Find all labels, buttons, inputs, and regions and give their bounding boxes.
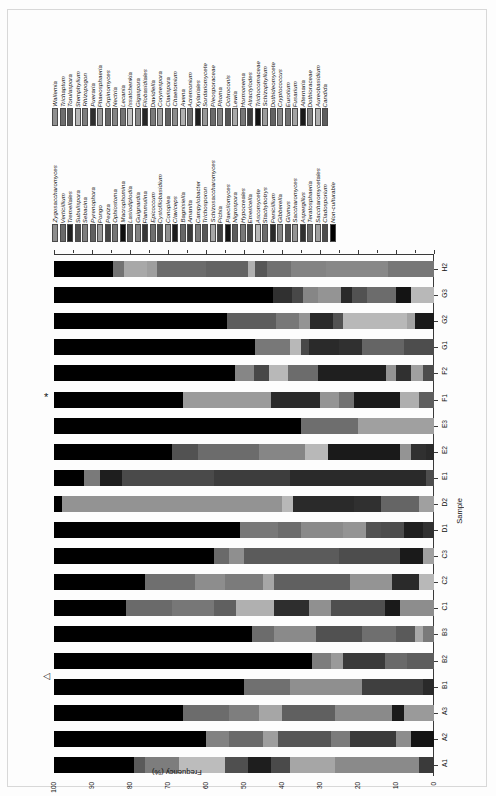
legend-item: Cladosporium <box>322 184 328 242</box>
legend-item: Orpinomyces <box>105 70 111 126</box>
sample-tick <box>434 321 438 322</box>
bar-segment <box>274 600 308 616</box>
bar-segment <box>255 339 289 355</box>
legend-color-swatch <box>300 108 306 126</box>
legend-item-label: Ophiostoma <box>112 189 118 223</box>
sample-tick-label: E3 <box>441 420 448 428</box>
legend-color-swatch <box>292 108 298 126</box>
bar-segment <box>124 261 147 277</box>
legend-color-swatch <box>247 108 253 126</box>
legend-color-swatch <box>187 224 193 242</box>
legend-color-swatch <box>277 224 283 242</box>
sample-tick-label: D2 <box>441 498 448 506</box>
bar-segment <box>282 705 335 721</box>
bar-segment <box>339 548 400 564</box>
legend-color-swatch <box>142 224 148 242</box>
frequency-minor-tick <box>225 250 226 253</box>
legend-item-label: Emericella <box>247 194 253 223</box>
frequency-tick <box>282 250 283 254</box>
legend-item: Penicillium <box>270 193 276 242</box>
legend-item: Corynespora <box>157 71 163 126</box>
legend-color-swatch <box>262 224 268 242</box>
bar-segment <box>235 365 254 381</box>
legend-color-swatch <box>180 224 186 242</box>
sample-tick <box>434 452 438 453</box>
legend-item: Aspergillus <box>300 192 306 242</box>
bar-segment <box>326 261 389 277</box>
legend-item: Gigaspora <box>135 78 141 126</box>
frequency-minor-tick <box>415 250 416 253</box>
bar-row <box>54 261 434 277</box>
legend-item: Dothideomycete <box>270 62 276 126</box>
bar-segment <box>310 313 333 329</box>
asterisk-marker: * <box>44 392 48 403</box>
legend-item-label: Non-culturable <box>330 182 336 223</box>
legend-color-swatch <box>112 108 118 126</box>
legend-item-label: Dothioraceae <box>307 70 313 107</box>
frequency-tick <box>130 250 131 254</box>
sample-tick-label: G2 <box>441 315 448 324</box>
bar-segment <box>426 444 434 460</box>
frequency-minor-tick <box>111 250 112 253</box>
sample-tick-label: A3 <box>441 707 448 715</box>
bar-segment <box>157 261 206 277</box>
bar-segment <box>229 705 259 721</box>
bar-segment <box>362 339 404 355</box>
legend-item-label: Zygosaccharomyces <box>52 165 58 223</box>
legend-item: Glomus <box>285 201 291 242</box>
bar-segment <box>303 287 318 303</box>
bar-segment <box>400 392 419 408</box>
legend-item-label: Pleosporaceae <box>210 65 216 107</box>
bar-segment <box>392 705 403 721</box>
bar-segment <box>271 757 290 773</box>
bar-segment <box>415 626 423 642</box>
bar-segment <box>318 365 386 381</box>
frequency-minor-tick <box>149 250 150 253</box>
frequency-axis-title: Frequency (%) <box>152 768 202 777</box>
legend-item: Sordariomycete <box>202 63 208 126</box>
frequency-minor-tick <box>339 250 340 253</box>
bar-segment <box>354 496 381 512</box>
bar-segment <box>400 548 423 564</box>
legend-item-label: Subulispora <box>75 190 81 223</box>
legend-color-swatch <box>315 108 321 126</box>
legend-item-label: Cystofilobasidium <box>157 174 163 223</box>
legend-color-swatch <box>150 108 156 126</box>
legend-item-label: Corynespora <box>157 71 163 107</box>
bar-segment <box>392 574 419 590</box>
legend-row-1: WallemiaTrichaptumTorulasporaStemphylium… <box>52 34 328 126</box>
bar-segment <box>62 496 282 512</box>
legend-color-swatch <box>277 108 283 126</box>
bar-segment <box>299 313 310 329</box>
bar-segment <box>411 444 426 460</box>
bar-segment <box>411 365 422 381</box>
frequency-tick-label: 60 <box>202 782 209 789</box>
bar-segment <box>423 522 434 538</box>
bar-segment <box>290 679 362 695</box>
bar-segment <box>54 548 214 564</box>
bar-segment <box>309 600 332 616</box>
legend-color-swatch <box>285 108 291 126</box>
bar-segment <box>254 365 269 381</box>
sample-tick <box>434 765 438 766</box>
bar-segment <box>301 418 358 434</box>
bar-segment <box>236 600 274 616</box>
bar-row <box>54 522 434 538</box>
bar-segment <box>54 392 183 408</box>
bar-row <box>54 470 434 486</box>
bar-segment <box>305 444 328 460</box>
bar-segment <box>206 731 229 747</box>
legend-color-swatch <box>330 224 336 242</box>
bar-segment <box>214 548 229 564</box>
legend-item-label: Stachybotrys <box>262 187 268 223</box>
bar-segment <box>331 731 350 747</box>
legend-item-label: Wallemia <box>52 81 58 107</box>
bar-segment <box>269 365 288 381</box>
legend-item: Cryptococcus <box>277 69 283 126</box>
legend-item: Trichaptum <box>60 76 66 126</box>
bar-segment <box>54 496 62 512</box>
bar-segment <box>320 392 339 408</box>
bar-segment <box>381 522 404 538</box>
legend-item-label: Penicillium <box>270 193 276 223</box>
bar-row <box>54 705 434 721</box>
